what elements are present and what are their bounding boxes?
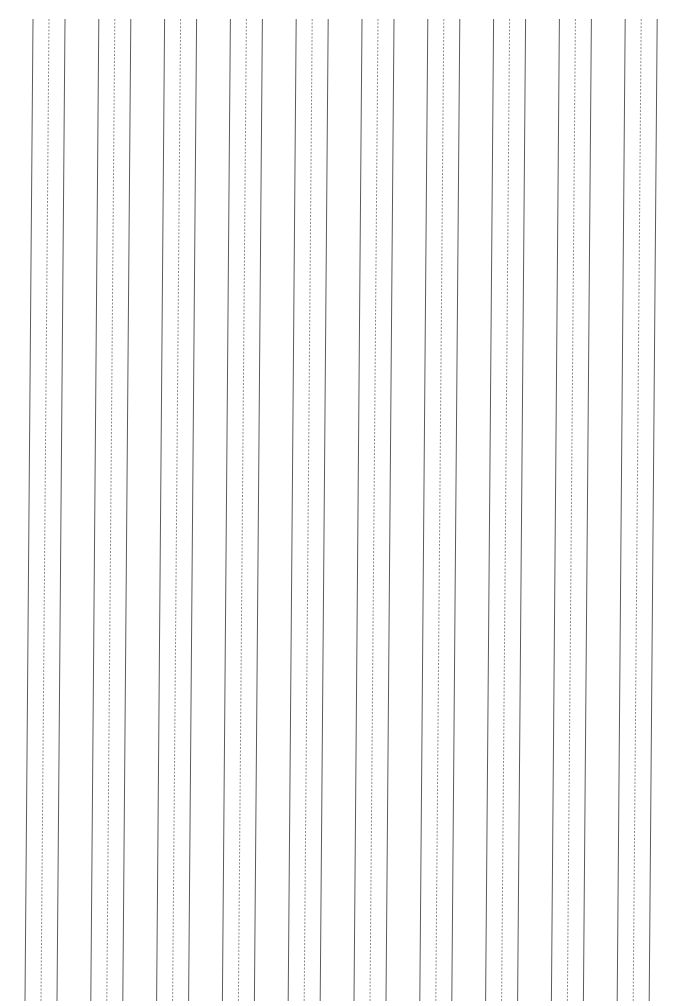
- guide-group: [420, 19, 460, 1001]
- guide-line-solid: [320, 19, 328, 1001]
- guide-line-solid: [288, 19, 296, 1001]
- guide-line-solid: [452, 19, 460, 1001]
- guide-group: [222, 19, 262, 1001]
- guide-line-solid: [518, 19, 526, 1001]
- guide-group: [91, 19, 131, 1001]
- practice-sheet: [0, 0, 684, 1006]
- guide-line-solid: [25, 19, 33, 1001]
- guide-line-dashed: [173, 19, 181, 1001]
- guide-line-dashed: [370, 19, 378, 1001]
- guide-lines: [0, 0, 684, 1006]
- guide-line-solid: [189, 19, 197, 1001]
- guide-line-dashed: [567, 19, 575, 1001]
- guide-line-dashed: [41, 19, 49, 1001]
- guide-group: [551, 19, 591, 1001]
- guide-line-dashed: [633, 19, 641, 1001]
- guide-line-dashed: [238, 19, 246, 1001]
- guide-line-solid: [123, 19, 131, 1001]
- guide-group: [617, 19, 657, 1001]
- guide-group: [288, 19, 328, 1001]
- guide-line-solid: [420, 19, 428, 1001]
- guide-line-dashed: [502, 19, 510, 1001]
- guide-line-solid: [91, 19, 99, 1001]
- guide-group: [486, 19, 526, 1001]
- guide-group: [157, 19, 197, 1001]
- guide-line-dashed: [107, 19, 115, 1001]
- guide-line-solid: [617, 19, 625, 1001]
- guide-line-solid: [583, 19, 591, 1001]
- guide-line-solid: [386, 19, 394, 1001]
- guide-line-solid: [649, 19, 657, 1001]
- guide-line-solid: [551, 19, 559, 1001]
- guide-line-solid: [222, 19, 230, 1001]
- guide-line-solid: [486, 19, 494, 1001]
- guide-group: [354, 19, 394, 1001]
- guide-group: [25, 19, 65, 1001]
- guide-line-solid: [254, 19, 262, 1001]
- guide-line-dashed: [436, 19, 444, 1001]
- guide-line-dashed: [304, 19, 312, 1001]
- guide-line-solid: [157, 19, 165, 1001]
- guide-line-solid: [57, 19, 65, 1001]
- guide-line-solid: [354, 19, 362, 1001]
